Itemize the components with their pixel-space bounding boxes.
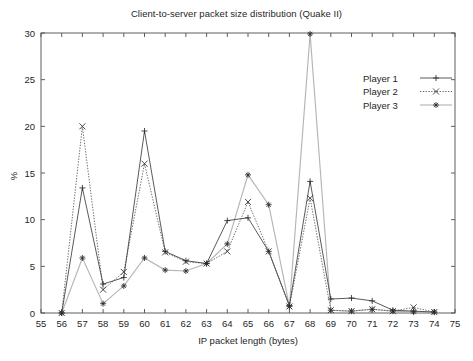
x-tick-label: 59: [119, 318, 130, 329]
x-tick-label: 71: [367, 318, 378, 329]
data-point-plus: [390, 307, 396, 313]
x-tick-label: 74: [429, 318, 440, 329]
x-tick-label: 64: [222, 318, 233, 329]
data-point-star: [142, 255, 148, 261]
x-tick-label: 55: [36, 318, 47, 329]
y-axis-title: %: [8, 171, 19, 180]
plot-canvas: 5556575859606162636465666768697071727374…: [0, 0, 473, 361]
legend-entry-2[interactable]: Player 2: [363, 86, 452, 97]
x-tick-label: 57: [77, 318, 88, 329]
x-tick-label: 60: [139, 318, 150, 329]
x-tick-label: 75: [450, 318, 461, 329]
legend-label: Player 1: [363, 73, 398, 84]
y-tick-label: 25: [24, 74, 35, 85]
data-point-star: [433, 102, 439, 108]
data-point-plus: [100, 281, 106, 287]
data-point-star: [79, 255, 85, 261]
x-tick-label: 67: [284, 318, 295, 329]
data-point-plus: [307, 178, 313, 184]
data-point-star: [224, 241, 230, 247]
y-tick-label: 30: [24, 28, 35, 39]
x-tick-label: 69: [326, 318, 337, 329]
data-point-plus: [245, 215, 251, 221]
x-tick-label: 68: [305, 318, 316, 329]
y-tick-label: 5: [30, 261, 35, 272]
series-line: [62, 131, 435, 313]
data-point-cross: [224, 248, 230, 254]
x-axis-title: IP packet length (bytes): [198, 335, 298, 346]
legend-label: Player 3: [363, 100, 398, 111]
x-axis-tick-labels: 5556575859606162636465666768697071727374…: [36, 318, 461, 329]
data-point-plus: [121, 275, 127, 281]
data-point-cross: [245, 199, 251, 205]
legend-label: Player 2: [363, 86, 398, 97]
data-point-star: [307, 31, 313, 37]
x-tick-label: 73: [408, 318, 419, 329]
x-tick-label: 62: [181, 318, 192, 329]
x-tick-label: 72: [388, 318, 399, 329]
data-point-plus: [224, 218, 230, 224]
legend-entry-1[interactable]: Player 1: [363, 73, 452, 84]
data-point-star: [183, 268, 189, 274]
data-point-plus: [349, 295, 355, 301]
x-tick-label: 61: [160, 318, 171, 329]
y-tick-label: 0: [30, 308, 35, 319]
x-tick-label: 66: [263, 318, 274, 329]
data-point-star: [162, 267, 168, 273]
y-axis-tick-labels: 051015202530: [24, 28, 35, 319]
x-tick-label: 65: [243, 318, 254, 329]
y-tick-label: 20: [24, 121, 35, 132]
data-point-plus: [369, 298, 375, 304]
data-point-plus: [183, 258, 189, 264]
x-tick-label: 63: [201, 318, 212, 329]
data-point-plus: [433, 75, 439, 81]
data-point-plus: [142, 128, 148, 134]
y-tick-label: 15: [24, 168, 35, 179]
x-tick-label: 56: [56, 318, 67, 329]
series-1: [59, 128, 438, 316]
legend-entry-3[interactable]: Player 3: [363, 100, 452, 111]
data-point-star: [266, 202, 272, 208]
x-tick-label: 70: [346, 318, 357, 329]
chart-figure: Client-to-server packet size distributio…: [0, 0, 473, 361]
data-point-plus: [286, 303, 292, 309]
y-tick-label: 10: [24, 214, 35, 225]
chart-legend: Player 1Player 2Player 3: [363, 73, 452, 111]
data-point-plus: [79, 185, 85, 191]
x-tick-label: 58: [98, 318, 109, 329]
